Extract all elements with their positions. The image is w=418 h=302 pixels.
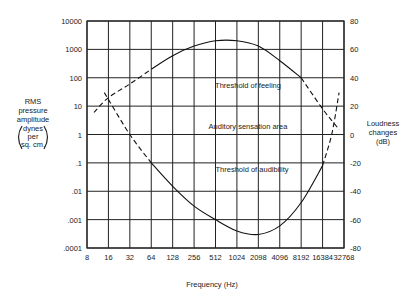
x-tick-label: 32 xyxy=(126,253,134,262)
x-tick-label: 1024 xyxy=(229,253,246,262)
y2-tick-label: -40 xyxy=(350,187,361,196)
chart-annotations: Threshold of feelingAuditory sensation a… xyxy=(209,81,289,174)
y2-axis-label: Loudness changes (dB) xyxy=(367,119,400,146)
threshold-of-audibility-curve-dashed-end xyxy=(323,93,340,166)
y2-tick-label: -60 xyxy=(350,216,361,225)
x-tick-label: 64 xyxy=(147,253,155,262)
y-tick-label: .001 xyxy=(67,216,82,225)
y2-label-line-0: Loudness xyxy=(367,119,400,128)
x-tick-label: 16384 xyxy=(312,253,333,262)
x-tick-label: 512 xyxy=(209,253,222,262)
y2-tick-label: 40 xyxy=(350,74,358,83)
y-tick-label: .01 xyxy=(72,187,82,196)
y-tick-label: 1 xyxy=(78,131,82,140)
left-axis-ticks: 100001000100101.1.01.001.0001 xyxy=(61,17,82,253)
annotation-label: Auditory sensation area xyxy=(209,122,289,131)
annotation-label: Threshold of feeling xyxy=(215,81,281,90)
threshold-of-feeling-curve xyxy=(151,40,301,78)
x-tick-label: 2098 xyxy=(250,253,267,262)
x-axis-ticks: 8163264128256512102420984096819216384327… xyxy=(85,253,355,262)
y-axis-label: RMS pressure amplitude dynes per sq. cm. xyxy=(17,97,50,149)
y-tick-label: .1 xyxy=(76,159,82,168)
y-tick-label: 100 xyxy=(69,74,82,83)
annotation-label: Threshold of audibility xyxy=(216,165,289,174)
y2-tick-label: -20 xyxy=(350,159,361,168)
y-tick-label: 10 xyxy=(74,102,82,111)
x-tick-label: 128 xyxy=(166,253,179,262)
y2-tick-label: -80 xyxy=(350,244,361,253)
y-tick-label: 10000 xyxy=(61,17,82,26)
y-label-line-1: pressure xyxy=(18,106,47,115)
y2-label-line-2: (dB) xyxy=(376,137,391,146)
x-tick-label: 16 xyxy=(104,253,112,262)
chart-grid xyxy=(87,21,344,248)
y2-tick-label: 20 xyxy=(350,102,358,111)
y-label-line-5: sq. cm. xyxy=(21,140,45,149)
y-label-line-0: RMS xyxy=(25,97,42,106)
y-label-line-2: amplitude xyxy=(17,115,50,124)
threshold-of-audibility-curve-dashed-start xyxy=(104,93,151,163)
x-tick-label: 256 xyxy=(188,253,201,262)
y-tick-label: .0001 xyxy=(63,244,82,253)
threshold-curves xyxy=(94,40,339,235)
x-axis-label: Frequency (Hz) xyxy=(186,280,238,289)
y-tick-label: 1000 xyxy=(65,45,82,54)
audibility-chart: 100001000100101.1.01.001.0001 806040200-… xyxy=(0,0,418,302)
y2-tick-label: 0 xyxy=(350,131,354,140)
y2-tick-label: 80 xyxy=(350,17,358,26)
x-tick-label: 8 xyxy=(85,253,89,262)
y2-tick-label: 60 xyxy=(350,45,358,54)
y2-label-line-1: changes xyxy=(369,128,398,137)
x-tick-label: 4096 xyxy=(271,253,288,262)
threshold-of-feeling-curve-dashed-end xyxy=(301,78,339,130)
x-tick-label: 8192 xyxy=(293,253,310,262)
right-axis-ticks: 806040200-20-40-60-80 xyxy=(350,17,361,253)
x-tick-label: 32768 xyxy=(334,253,355,262)
